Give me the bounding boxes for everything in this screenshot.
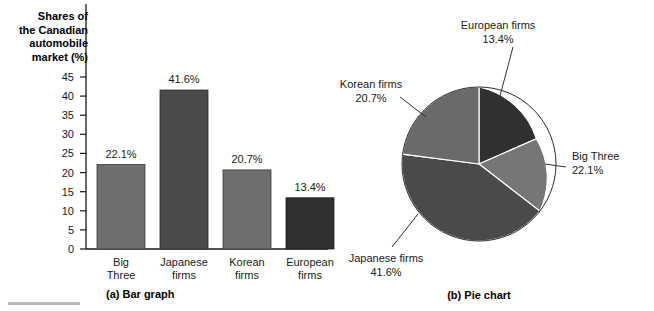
y-tick-label-35: 35 xyxy=(62,109,74,121)
pie-label-korean-firms-value: 20.7% xyxy=(355,92,386,104)
bar-value-european-firms: 13.4% xyxy=(294,181,325,193)
pie-callout-korean-firms: Korean firms 20.7% xyxy=(340,78,403,104)
cat-label-big-three-line2: Three xyxy=(107,269,136,281)
pie-label-japanese-firms-value: 41.6% xyxy=(370,266,401,278)
pie-callout-european-firms: European firms 13.4% xyxy=(461,19,536,45)
y-tick-label-20: 20 xyxy=(62,167,74,179)
bar-value-japanese-firms: 41.6% xyxy=(168,73,199,85)
leader-line-korean-firms xyxy=(400,97,426,117)
y-tick-label-40: 40 xyxy=(62,90,74,102)
bar-graph-svg: 0 5 10 15 20 25 30 35 40 45 22.1% 41. xyxy=(0,0,340,311)
pie-label-european-firms-value: 13.4% xyxy=(482,33,513,45)
pie-label-big-three-name: Big Three xyxy=(572,150,620,162)
leader-line-european-firms xyxy=(500,47,513,96)
pie-panel-caption: (b) Pie chart xyxy=(447,289,511,301)
pie-callout-big-three: Big Three 22.1% xyxy=(572,150,620,176)
bar-japanese-firms xyxy=(160,90,208,249)
y-tick-label-30: 30 xyxy=(62,128,74,140)
y-tick-label-10: 10 xyxy=(62,205,74,217)
bar-panel-caption: (a) Bar graph xyxy=(106,288,175,300)
y-tick-label-5: 5 xyxy=(68,224,74,236)
cat-label-big-three-line1: Big xyxy=(113,256,129,268)
cat-label-japanese-line1: Japanese xyxy=(160,256,208,268)
bar-graph-panel: Shares of the Canadian automobile market… xyxy=(0,0,340,311)
leader-line-japanese-firms xyxy=(392,214,418,247)
y-tick-label-15: 15 xyxy=(62,186,74,198)
bar-european-firms xyxy=(286,198,334,249)
bar-value-korean-firms: 20.7% xyxy=(231,153,262,165)
y-tick-label-45: 45 xyxy=(62,71,74,83)
pie-chart-svg: European firms 13.4% Big Three 22.1% Jap… xyxy=(330,0,654,311)
figure-container: Shares of the Canadian automobile market… xyxy=(0,0,654,311)
y-tick-label-0: 0 xyxy=(68,243,74,255)
cat-label-european-line2: firms xyxy=(298,269,322,281)
cat-label-european-line1: European xyxy=(286,256,334,268)
bar-value-big-three: 22.1% xyxy=(105,148,136,160)
pie-callout-japanese-firms: Japanese firms 41.6% xyxy=(349,252,424,278)
pie-label-korean-firms-name: Korean firms xyxy=(340,78,403,90)
pie-slice-korean-firms xyxy=(403,87,479,164)
bar-korean-firms xyxy=(223,170,271,249)
y-axis-ticks xyxy=(80,77,86,249)
cat-label-korean-line1: Korean xyxy=(229,256,264,268)
cat-label-korean-line2: firms xyxy=(235,269,259,281)
pie-label-japanese-firms-name: Japanese firms xyxy=(349,252,424,264)
cat-label-japanese-line2: firms xyxy=(172,269,196,281)
x-axis-category-labels: Big Three Japanese firms Korean firms Eu… xyxy=(107,256,334,281)
pie-chart-panel: European firms 13.4% Big Three 22.1% Jap… xyxy=(330,0,654,311)
bar-big-three xyxy=(97,165,145,250)
pie-label-european-firms-name: European firms xyxy=(461,19,536,31)
y-tick-label-25: 25 xyxy=(62,147,74,159)
bottom-rule xyxy=(8,302,80,305)
pie-label-big-three-value: 22.1% xyxy=(572,164,603,176)
y-axis-tick-labels: 0 5 10 15 20 25 30 35 40 45 xyxy=(62,71,74,255)
